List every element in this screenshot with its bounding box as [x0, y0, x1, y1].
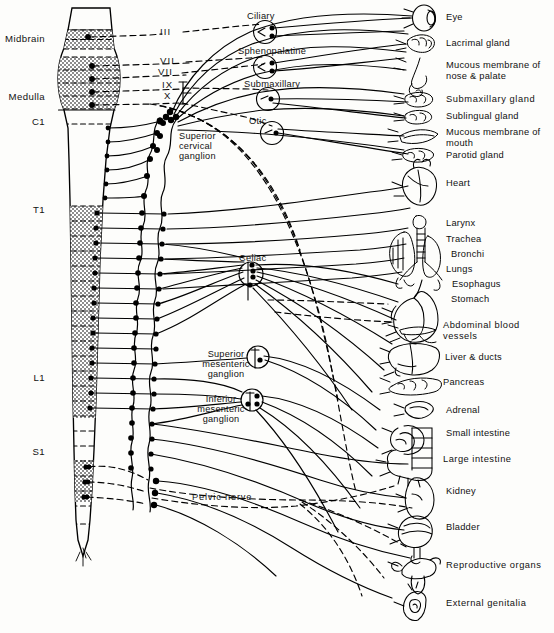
label-cranial-nerve-vii-b: VII — [158, 67, 173, 78]
organ-liver — [380, 344, 439, 377]
label-reproductive-organs: Reproductive organs — [446, 560, 541, 571]
label-sphenopalatine-ganglion: Sphenopalatine — [238, 46, 306, 57]
thoracic-sympathetic-fibers — [163, 186, 410, 289]
organ-abdominal-vessels — [388, 325, 436, 344]
organ-respiratory-tract — [390, 215, 442, 290]
label-small-intestine: Small intestine — [446, 428, 510, 439]
label-submaxillary-gland: Submaxillary gland — [446, 94, 535, 105]
label-external-genitalia: External genitalia — [446, 598, 526, 609]
label-bladder: Bladder — [446, 522, 480, 533]
organ-small-intestine — [382, 426, 424, 455]
label-adrenal: Adrenal — [446, 405, 480, 416]
organ-nose-palate — [394, 58, 427, 97]
label-kidney: Kidney — [446, 486, 476, 497]
label-sublingual-gland: Sublingual gland — [446, 111, 519, 122]
label-abdominal-blood-vessels: Abdominal blood vessels — [443, 320, 520, 341]
organ-eye — [402, 5, 436, 31]
label-parotid-gland: Parotid gland — [446, 150, 504, 161]
label-stomach: Stomach — [451, 294, 489, 305]
label-cranial-nerve-vii-a: VII — [160, 56, 175, 67]
label-heart: Heart — [446, 178, 470, 189]
organ-parotid-gland — [392, 148, 434, 162]
label-mucous-membrane-mouth: Mucous membrane of mouth — [446, 127, 540, 148]
label-cranial-nerve-ix: IX — [162, 80, 173, 91]
cervical-roots — [105, 122, 157, 198]
label-lungs: Lungs — [446, 264, 473, 275]
figure-canvas: Midbrain Medulla C1 T1 L1 S1 III VII VII… — [0, 0, 554, 633]
label-t1: T1 — [0, 205, 45, 216]
label-s1: S1 — [0, 447, 45, 458]
organ-mouth-mucosa — [388, 129, 438, 144]
organ-adrenal — [394, 402, 433, 419]
label-larynx: Larynx — [446, 218, 475, 229]
sacral-parasympathetic-fibers — [87, 466, 412, 596]
organ-heart — [392, 159, 437, 205]
label-celiac-ganglion: Celiac — [239, 253, 266, 264]
label-trachea: Trachea — [446, 234, 482, 245]
label-pancreas: Pancreas — [443, 377, 484, 388]
label-l1: L1 — [0, 373, 45, 384]
label-inferior-mesenteric-ganglion: Inferior mesenteric ganglion — [186, 394, 256, 425]
organ-external-genitalia — [394, 582, 426, 621]
organ-kidney — [396, 478, 434, 519]
organ-bladder — [388, 516, 432, 564]
sympathetic-chain — [131, 118, 176, 512]
label-c1: C1 — [0, 117, 45, 128]
label-superior-mesenteric-ganglion: Superior mesenteric ganglion — [193, 349, 259, 380]
label-esophagus: Esophagus — [452, 279, 501, 290]
label-lacrimal-gland: Lacrimal gland — [446, 38, 510, 49]
label-medulla: Medulla — [0, 92, 45, 103]
label-cranial-nerve-x: X — [164, 91, 172, 102]
label-liver-and-ducts: Liver & ducts — [445, 352, 502, 363]
label-otic-ganglion: Otic — [249, 116, 267, 127]
label-eye: Eye — [446, 12, 463, 23]
organ-pancreas — [380, 378, 441, 395]
organ-lacrimal-gland — [396, 35, 434, 53]
label-cranial-nerve-iii: III — [160, 27, 171, 38]
label-large-intestine: Large intestine — [443, 454, 512, 465]
label-superior-cervical-ganglion: Superior cervical ganglion — [179, 131, 216, 162]
organ-submaxillary-gland — [394, 92, 433, 107]
label-mucous-membrane-nose: Mucous membrane of nose & palate — [446, 60, 540, 81]
label-midbrain: Midbrain — [0, 34, 45, 45]
label-bronchi: Bronchi — [451, 249, 484, 260]
label-submaxillary-ganglion: Submaxillary — [244, 79, 300, 90]
label-ciliary-ganglion: Ciliary — [247, 11, 275, 22]
label-pelvic-nerve: Pelvic nerve — [192, 492, 252, 503]
